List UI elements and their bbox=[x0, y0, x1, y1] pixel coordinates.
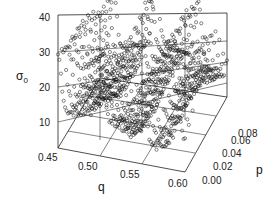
data-point bbox=[98, 36, 101, 39]
data-point bbox=[187, 123, 190, 126]
z-tick-10: 10 bbox=[39, 117, 51, 128]
data-point bbox=[150, 19, 153, 22]
data-point bbox=[149, 42, 152, 45]
data-point bbox=[188, 83, 191, 86]
data-point bbox=[175, 83, 178, 86]
data-point bbox=[200, 22, 203, 25]
data-point bbox=[193, 92, 196, 95]
data-point bbox=[165, 47, 168, 50]
data-point bbox=[172, 58, 175, 61]
data-point bbox=[69, 39, 72, 42]
data-point bbox=[89, 30, 92, 33]
data-point bbox=[179, 120, 182, 123]
data-point bbox=[186, 82, 189, 85]
data-point bbox=[117, 108, 120, 111]
data-point bbox=[207, 49, 210, 52]
data-point bbox=[115, 103, 118, 106]
data-point bbox=[160, 29, 163, 32]
data-point bbox=[70, 58, 73, 61]
data-point bbox=[201, 44, 204, 47]
data-point bbox=[155, 148, 158, 151]
data-point bbox=[131, 41, 134, 44]
data-point bbox=[111, 122, 114, 125]
data-point bbox=[197, 61, 200, 64]
data-point bbox=[104, 19, 107, 22]
data-point bbox=[64, 106, 67, 109]
data-point bbox=[108, 16, 111, 19]
data-point bbox=[110, 27, 113, 30]
data-point bbox=[181, 98, 184, 101]
data-point bbox=[86, 14, 89, 17]
data-point bbox=[93, 17, 96, 20]
data-point bbox=[118, 126, 121, 129]
data-point bbox=[185, 9, 188, 12]
data-point bbox=[128, 39, 131, 42]
data-point bbox=[77, 51, 80, 54]
data-point bbox=[146, 62, 149, 65]
data-point bbox=[129, 36, 132, 39]
data-point bbox=[106, 113, 109, 116]
data-point bbox=[143, 98, 146, 101]
data-point bbox=[67, 90, 70, 93]
data-point bbox=[110, 56, 113, 59]
data-point bbox=[93, 39, 96, 42]
data-point bbox=[146, 15, 149, 18]
z-axis-label: σ0 bbox=[16, 69, 28, 85]
data-point bbox=[146, 18, 149, 21]
data-point bbox=[161, 83, 164, 86]
data-point bbox=[153, 129, 156, 132]
data-point bbox=[193, 26, 196, 29]
data-point bbox=[154, 131, 157, 134]
data-point bbox=[129, 136, 132, 139]
data-point bbox=[144, 1, 147, 4]
data-point bbox=[199, 61, 202, 64]
p-axis-label: p bbox=[256, 163, 263, 177]
q-tick-0.55: 0.55 bbox=[120, 169, 140, 180]
data-point bbox=[105, 31, 108, 34]
data-point bbox=[165, 75, 168, 78]
data-point bbox=[73, 85, 76, 88]
data-point bbox=[144, 86, 147, 89]
data-point bbox=[145, 27, 148, 30]
p-tick-0.00: 0.00 bbox=[202, 175, 222, 186]
data-point bbox=[157, 118, 160, 121]
data-point bbox=[108, 50, 111, 53]
data-point bbox=[92, 10, 95, 13]
data-point bbox=[78, 90, 81, 93]
data-point bbox=[215, 67, 218, 70]
q-tick-0.45: 0.45 bbox=[38, 152, 58, 163]
data-point bbox=[172, 36, 175, 39]
q-tick-0.60: 0.60 bbox=[168, 178, 188, 189]
data-point bbox=[76, 62, 79, 65]
data-point bbox=[191, 109, 194, 112]
data-point bbox=[85, 21, 88, 24]
data-point bbox=[78, 35, 81, 38]
data-point bbox=[198, 8, 201, 11]
data-point bbox=[143, 37, 146, 40]
data-point bbox=[109, 8, 112, 11]
data-point bbox=[101, 11, 104, 14]
data-point bbox=[199, 70, 202, 73]
data-point bbox=[73, 43, 76, 46]
data-point bbox=[165, 112, 168, 115]
data-point bbox=[212, 73, 215, 76]
data-point bbox=[62, 99, 65, 102]
data-point bbox=[91, 50, 94, 53]
data-point bbox=[171, 33, 174, 36]
data-point bbox=[120, 70, 123, 73]
data-point bbox=[84, 33, 87, 36]
data-point bbox=[211, 59, 214, 62]
data-point bbox=[110, 1, 113, 4]
data-point bbox=[83, 77, 86, 80]
data-point bbox=[103, 25, 106, 28]
data-point bbox=[102, 39, 105, 42]
data-point bbox=[126, 55, 129, 58]
data-point bbox=[218, 38, 221, 41]
data-point bbox=[187, 69, 190, 72]
data-point bbox=[136, 115, 139, 118]
data-point bbox=[168, 61, 171, 64]
data-point bbox=[220, 63, 223, 66]
data-point bbox=[156, 41, 159, 44]
data-point bbox=[144, 54, 147, 57]
data-point bbox=[137, 104, 140, 107]
